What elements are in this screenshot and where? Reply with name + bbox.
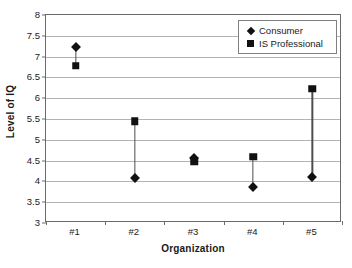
gridline [46, 57, 340, 58]
x-tick-mark [342, 221, 343, 225]
y-tick-label: 7.5 [0, 29, 40, 40]
x-tick-mark [164, 221, 165, 225]
x-tick-mark [283, 221, 284, 225]
y-tick-mark [42, 181, 46, 182]
x-tick-label: #3 [188, 226, 199, 237]
gridline [46, 77, 340, 78]
x-tick-label: #2 [129, 226, 140, 237]
y-tick-mark [42, 35, 46, 36]
chart-legend: ConsumerIS Professional [238, 20, 337, 54]
data-point-square [249, 153, 257, 161]
gridline [46, 140, 340, 141]
data-point-square [72, 62, 80, 70]
gridline [46, 181, 340, 182]
range-connector [312, 89, 313, 178]
y-tick-mark [42, 56, 46, 57]
x-tick-label: #5 [306, 226, 317, 237]
y-tick-mark [42, 119, 46, 120]
square-marker-icon [244, 40, 257, 47]
gridline [46, 98, 340, 99]
y-tick-label: 4.5 [0, 154, 40, 165]
chart-figure: Level of IQ 87.576.565.554.543.53 #1#2#3… [0, 0, 352, 268]
y-tick-label: 8 [0, 9, 40, 20]
x-tick-label: #4 [247, 226, 258, 237]
legend-item-label: Consumer [257, 25, 303, 36]
y-tick-label: 6.5 [0, 71, 40, 82]
x-tick-mark [46, 221, 47, 225]
y-tick-mark [42, 15, 46, 16]
y-tick-label: 5 [0, 133, 40, 144]
data-point-square [190, 158, 198, 166]
range-connector [134, 121, 135, 178]
square-glyph [247, 40, 254, 47]
data-point-diamond [248, 182, 258, 192]
diamond-marker-icon [244, 28, 257, 34]
y-tick-label: 4 [0, 175, 40, 186]
x-tick-label: #1 [69, 226, 80, 237]
x-axis-title: Organization [45, 243, 341, 254]
legend-item: Consumer [244, 24, 332, 37]
legend-item-label: IS Professional [257, 38, 323, 49]
data-point-square [131, 117, 139, 125]
gridline [46, 202, 340, 203]
y-tick-label: 6 [0, 92, 40, 103]
y-tick-mark [42, 202, 46, 203]
y-tick-mark [42, 77, 46, 78]
x-tick-mark [224, 221, 225, 225]
x-tick-mark [105, 221, 106, 225]
x-axis-title-text: Organization [161, 243, 225, 254]
y-tick-label: 5.5 [0, 113, 40, 124]
diamond-glyph [246, 26, 254, 34]
legend-item: IS Professional [244, 37, 332, 50]
y-tick-mark [42, 98, 46, 99]
y-tick-label: 7 [0, 50, 40, 61]
data-point-square [309, 85, 317, 93]
y-tick-label: 3.5 [0, 196, 40, 207]
data-point-diamond [71, 42, 81, 52]
y-tick-mark [42, 223, 46, 224]
gridline [46, 119, 340, 120]
y-tick-mark [42, 160, 46, 161]
y-tick-label: 3 [0, 217, 40, 228]
y-tick-mark [42, 139, 46, 140]
